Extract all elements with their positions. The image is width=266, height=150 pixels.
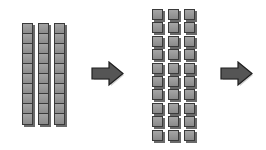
unit-cube — [184, 22, 195, 33]
unit-cube — [184, 9, 195, 20]
ten-rod — [22, 23, 33, 125]
rod-unit-segment — [23, 94, 32, 104]
unit-cube — [168, 76, 179, 87]
ten-rod — [38, 23, 49, 125]
rod-unit-segment — [55, 44, 64, 54]
unit-cube — [152, 9, 163, 20]
unit-cube — [152, 116, 163, 127]
unit-cube — [152, 49, 163, 60]
unit-cube — [184, 130, 195, 141]
unit-cube — [168, 36, 179, 47]
rod-unit-segment — [39, 54, 48, 64]
rod-unit-segment — [23, 24, 32, 34]
rod-unit-segment — [23, 104, 32, 114]
rod-unit-segment — [55, 114, 64, 124]
unit-cube — [168, 63, 179, 74]
rod-unit-segment — [39, 114, 48, 124]
unit-cube — [152, 63, 163, 74]
rod-unit-segment — [55, 24, 64, 34]
right-arrow-icon — [91, 61, 127, 87]
unit-cube — [184, 116, 195, 127]
unit-cube — [152, 76, 163, 87]
unit-cube — [184, 49, 195, 60]
rod-unit-segment — [23, 44, 32, 54]
rod-unit-segment — [55, 104, 64, 114]
rod-unit-segment — [55, 54, 64, 64]
unit-cube — [168, 22, 179, 33]
unit-cube — [168, 103, 179, 114]
rod-unit-segment — [39, 84, 48, 94]
unit-cube — [168, 9, 179, 20]
rod-unit-segment — [55, 94, 64, 104]
rod-unit-segment — [23, 84, 32, 94]
unit-cube — [184, 89, 195, 100]
unit-cube — [152, 36, 163, 47]
unit-cube — [168, 49, 179, 60]
right-arrow-icon — [220, 61, 256, 87]
rod-unit-segment — [39, 94, 48, 104]
unit-cube — [152, 22, 163, 33]
rod-unit-segment — [55, 84, 64, 94]
rod-unit-segment — [39, 64, 48, 74]
unit-cube — [152, 89, 163, 100]
rod-unit-segment — [23, 74, 32, 84]
unit-cube — [168, 89, 179, 100]
rod-unit-segment — [23, 54, 32, 64]
rod-unit-segment — [39, 44, 48, 54]
rod-unit-segment — [39, 34, 48, 44]
rod-unit-segment — [55, 74, 64, 84]
unit-cube — [184, 103, 195, 114]
unit-cube — [152, 103, 163, 114]
ten-rod — [54, 23, 65, 125]
unit-cube — [168, 116, 179, 127]
unit-cube — [184, 63, 195, 74]
rod-unit-segment — [39, 74, 48, 84]
rod-unit-segment — [23, 114, 32, 124]
unit-cube — [184, 76, 195, 87]
unit-cube — [152, 130, 163, 141]
rod-unit-segment — [23, 34, 32, 44]
rod-unit-segment — [39, 104, 48, 114]
unit-cube — [184, 36, 195, 47]
rod-unit-segment — [55, 64, 64, 74]
unit-cube — [168, 130, 179, 141]
rod-unit-segment — [55, 34, 64, 44]
rod-unit-segment — [39, 24, 48, 34]
rod-unit-segment — [23, 64, 32, 74]
